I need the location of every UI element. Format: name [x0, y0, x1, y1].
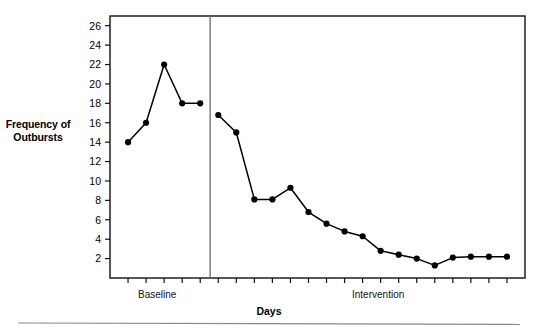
- data-point: [504, 254, 510, 260]
- data-point: [233, 129, 239, 135]
- y-tick-label: 4: [95, 233, 101, 245]
- x-axis-ticks: [128, 278, 507, 283]
- data-point: [269, 196, 275, 202]
- y-axis-label-line2: Outbursts: [13, 131, 62, 143]
- data-point: [251, 196, 257, 202]
- phase-label-baseline: Baseline: [138, 289, 176, 300]
- data-point: [125, 139, 131, 145]
- data-point: [360, 233, 366, 239]
- y-tick-label: 10: [89, 175, 101, 187]
- y-tick-label: 8: [95, 194, 101, 206]
- data-point: [305, 209, 311, 215]
- y-tick-label: 14: [89, 136, 101, 148]
- series-line-baseline: [128, 65, 200, 143]
- data-point: [161, 61, 167, 67]
- data-point: [143, 120, 149, 126]
- data-series-layer: [125, 61, 510, 268]
- data-point: [287, 185, 293, 191]
- y-tick-label: 12: [89, 155, 101, 167]
- y-axis-label-line1: Frequency of: [6, 118, 71, 130]
- y-tick-label: 26: [89, 20, 101, 32]
- y-tick-label: 22: [89, 58, 101, 70]
- y-tick-label: 18: [89, 97, 101, 109]
- data-point: [468, 254, 474, 260]
- data-point: [179, 100, 185, 106]
- data-point: [197, 100, 203, 106]
- series-line-intervention: [218, 115, 507, 265]
- phase-label-intervention: Intervention: [352, 289, 404, 300]
- data-point: [432, 262, 438, 268]
- y-tick-label: 24: [89, 39, 101, 51]
- x-axis-title: Days: [0, 305, 538, 317]
- y-tick-label: 16: [89, 117, 101, 129]
- plot-frame: [110, 16, 525, 278]
- data-point: [341, 228, 347, 234]
- data-point: [396, 252, 402, 258]
- data-point: [486, 254, 492, 260]
- data-point: [215, 112, 221, 118]
- data-point: [414, 255, 420, 261]
- figure-container: Frequency of Outbursts 24681012141618202…: [0, 0, 538, 330]
- data-point: [450, 255, 456, 261]
- data-point: [323, 221, 329, 227]
- line-chart-plot: 2468101214161820222426: [0, 0, 538, 330]
- y-tick-label: 20: [89, 78, 101, 90]
- footer-rule: [0, 318, 538, 330]
- y-axis-ticks: 2468101214161820222426: [89, 20, 110, 265]
- y-tick-label: 2: [95, 252, 101, 264]
- y-tick-label: 6: [95, 214, 101, 226]
- y-axis-label: Frequency of Outbursts: [2, 118, 74, 143]
- data-point: [378, 248, 384, 254]
